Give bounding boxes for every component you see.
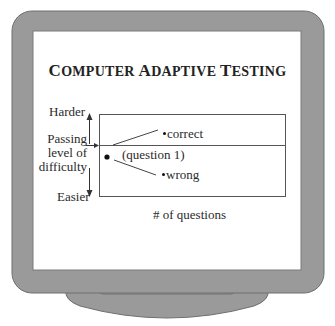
passing-level-label: Passing level of difficulty	[37, 132, 87, 174]
x-axis-label: # of questions	[153, 208, 226, 222]
correct-label: correct	[167, 127, 203, 141]
question-1-dot	[104, 154, 109, 159]
wrong-label: wrong	[166, 168, 199, 182]
passing-label-line-2: level of	[37, 146, 87, 160]
correct-dot	[163, 132, 166, 135]
wrong-dot	[162, 173, 165, 176]
passing-label-line-3: difficulty	[37, 160, 87, 174]
easier-label: Easier	[57, 190, 89, 204]
title-word-3: TESTING	[220, 64, 286, 79]
passing-label-line-1: Passing	[37, 132, 87, 146]
harder-label: Harder	[49, 105, 85, 119]
title-word-2: ADAPTIVE	[139, 64, 217, 79]
question-1-label: (question 1)	[122, 148, 184, 162]
diagram-title: COMPUTER ADAPTIVE TESTING	[0, 61, 335, 81]
title-word-1: COMPUTER	[49, 64, 135, 79]
